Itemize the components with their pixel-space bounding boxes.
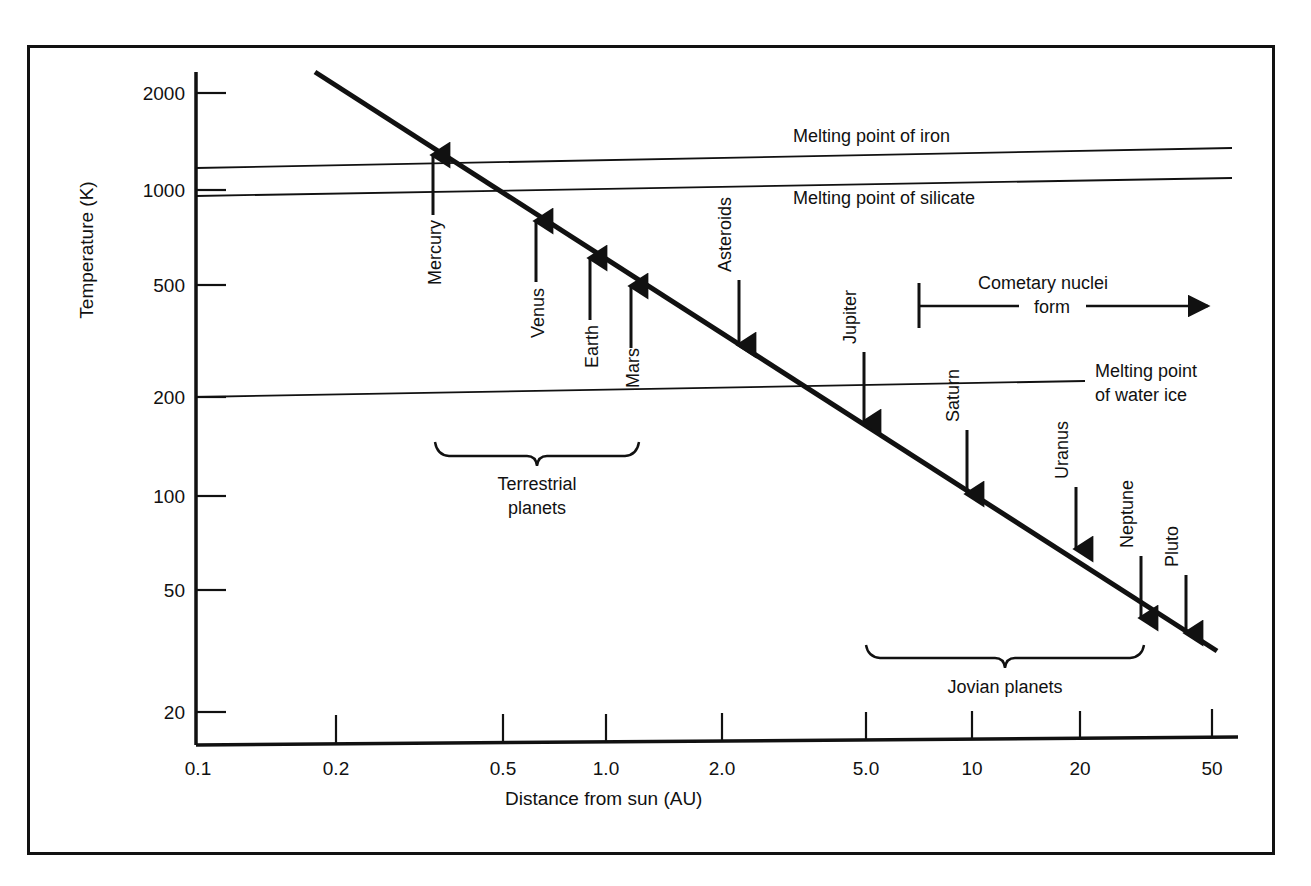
y-tick-label-500: 500 [153,275,185,296]
jovian-planets-label: Jovian planets [947,677,1062,697]
earth-label: Earth [582,325,602,368]
y-tick-label-200: 200 [153,387,185,408]
melting-point-water-ice-label-line1: Melting point [1095,361,1197,381]
x-tick-label-5-0: 5.0 [853,758,879,779]
y-tick-label-50: 50 [164,580,185,601]
terrestrial-planets-bracket [435,442,639,466]
nebular-temperature-profile [315,72,1217,651]
y-tick-label-100: 100 [153,486,185,507]
annotation-venus: Venus [528,221,548,338]
melting-point-water-ice-label-line2: of water ice [1095,385,1187,405]
melting-point-silicate-line [196,178,1232,196]
annotation-uranus: Uranus [1052,421,1076,549]
y-tick-label-20: 20 [164,702,185,723]
x-axis-line [196,737,1238,745]
x-axis-title: Distance from sun (AU) [505,788,702,810]
jupiter-label: Jupiter [840,290,860,344]
figure-page: 2000 1000 500 200 100 50 20 0.1 0.2 0.5 … [0,0,1311,886]
terrestrial-planets-label-line1: Terrestrial [497,474,576,494]
melting-point-iron-line [196,148,1232,168]
temperature-vs-distance-chart: 2000 1000 500 200 100 50 20 0.1 0.2 0.5 … [0,0,1311,886]
x-tick-label-2-0: 2.0 [709,758,735,779]
y-tick-label-1000: 1000 [143,180,185,201]
reference-lines: Melting point of iron Melting point of s… [196,126,1232,405]
pluto-label: Pluto [1162,526,1182,567]
x-tick-label-0-5: 0.5 [490,758,516,779]
venus-label: Venus [528,288,548,338]
y-tick-label-2000: 2000 [143,83,185,104]
asteroids-label: Asteroids [715,197,735,272]
melting-point-iron-label: Melting point of iron [793,126,950,146]
x-tick-label-0-2: 0.2 [323,758,349,779]
mars-label: Mars [623,348,643,388]
annotation-jupiter: Jupiter [840,290,864,422]
terrestrial-planets-bracket-group: Terrestrial planets [435,442,639,518]
x-tick-label-1-0: 1.0 [593,758,619,779]
terrestrial-planets-label-line2: planets [508,498,566,518]
annotation-mars: Mars [623,286,643,388]
temperature-profile-line [315,72,1217,651]
x-tick-label-0-1: 0.1 [185,758,211,779]
annotation-asteroids: Asteroids [715,197,739,345]
cometary-label-line1: Cometary nuclei [978,273,1108,293]
jovian-planets-bracket [866,645,1144,668]
axis-lines [196,72,1238,745]
planet-annotations: Mercury Venus Earth Mars Asteroids [425,155,1186,633]
x-tick-label-20: 20 [1069,758,1090,779]
y-axis-title: Temperature (K) [76,130,98,370]
annotation-earth: Earth [582,258,602,368]
cometary-label-line2: form [1034,297,1070,317]
jovian-planets-bracket-group: Jovian planets [866,645,1144,697]
x-tick-label-10: 10 [961,758,982,779]
uranus-label: Uranus [1052,421,1072,479]
saturn-label: Saturn [943,369,963,422]
mercury-label: Mercury [425,220,445,285]
neptune-label: Neptune [1117,480,1137,548]
melting-point-silicate-label: Melting point of silicate [793,188,975,208]
y-axis-ticks: 2000 1000 500 200 100 50 20 [143,83,226,723]
cometary-nuclei-marker: Cometary nuclei form [919,273,1208,328]
annotation-mercury: Mercury [425,155,445,285]
x-tick-label-50: 50 [1201,758,1222,779]
